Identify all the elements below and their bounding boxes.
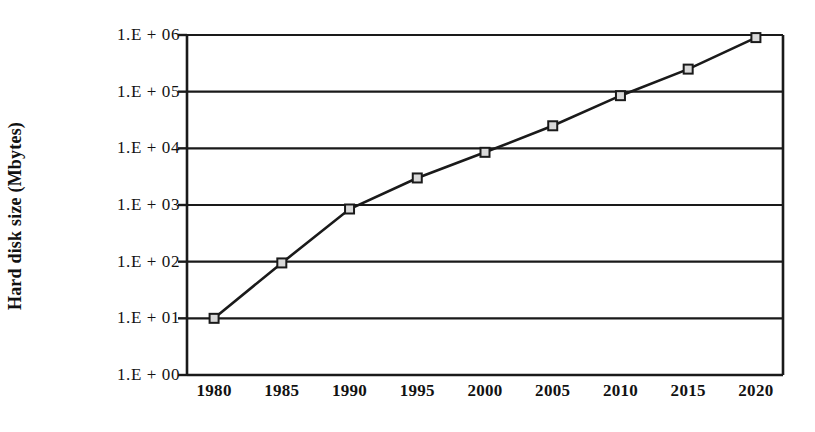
- data-point-marker: [751, 33, 760, 42]
- gridlines: [187, 35, 783, 318]
- data-point-marker: [345, 205, 354, 214]
- data-point-marker: [684, 65, 693, 74]
- data-point-markers: [210, 33, 761, 323]
- data-point-marker: [413, 173, 422, 182]
- series-line: [214, 38, 756, 319]
- data-point-marker: [210, 314, 219, 323]
- data-point-marker: [548, 121, 557, 130]
- data-series-line: [214, 38, 756, 319]
- data-point-marker: [616, 91, 625, 100]
- plot-area: [0, 0, 815, 432]
- data-point-marker: [481, 148, 490, 157]
- data-point-marker: [277, 258, 286, 267]
- y-axis-ticks: [178, 35, 187, 375]
- hard-disk-size-chart: Hard disk size (Mbytes) 1.E + 061.E + 05…: [0, 0, 815, 432]
